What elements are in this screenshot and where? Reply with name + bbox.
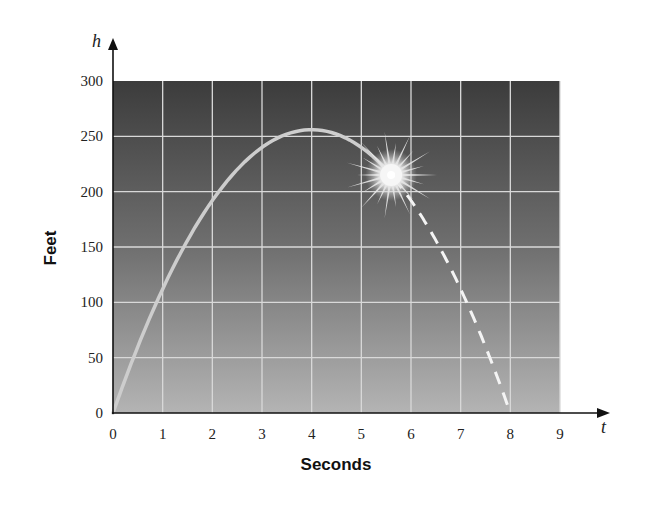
y-tick-label: 50 [88,350,103,366]
x-tick-label: 6 [407,426,415,442]
y-axis-variable: h [92,31,101,51]
y-tick-label: 200 [81,184,104,200]
x-tick-label: 1 [159,426,167,442]
x-tick-label: 4 [308,426,316,442]
y-tick-label: 250 [81,128,104,144]
x-axis-variable: t [601,417,607,437]
y-axis-arrow-icon [108,38,118,50]
x-axis-title: Seconds [301,455,372,474]
chart: 0123456789 050100150200250300 h t Second… [0,0,645,506]
y-axis-title: Feet [41,230,60,265]
x-tick-labels: 0123456789 [109,426,564,442]
y-tick-label: 150 [81,239,104,255]
x-tick-label: 7 [457,426,465,442]
x-tick-label: 5 [358,426,366,442]
x-tick-label: 2 [209,426,217,442]
x-tick-label: 0 [109,426,117,442]
y-tick-label: 300 [81,73,104,89]
y-tick-labels: 050100150200250300 [81,73,104,421]
y-tick-label: 100 [81,294,104,310]
x-tick-label: 8 [507,426,515,442]
x-tick-label: 3 [258,426,266,442]
y-tick-label: 0 [96,405,104,421]
x-tick-label: 9 [556,426,564,442]
